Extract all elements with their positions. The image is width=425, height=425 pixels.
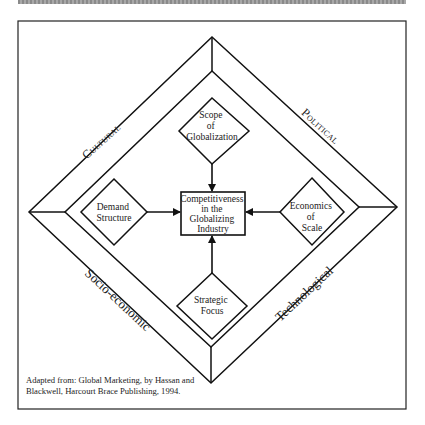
- env-political-label: Political: [299, 105, 343, 146]
- globalization-diagram: Scope of Globalization Demand Structure …: [0, 0, 425, 425]
- env-socioeconomic-label: Socio-economic: [82, 265, 154, 334]
- env-technological-label: Technological: [272, 263, 336, 324]
- factor-demand-label: Demand Structure: [97, 202, 132, 223]
- env-cultural-label: Cultural: [79, 120, 123, 162]
- source-note: Adapted from: Global Marketing, by Hassa…: [26, 375, 196, 396]
- factor-scope-diamond: [179, 98, 249, 164]
